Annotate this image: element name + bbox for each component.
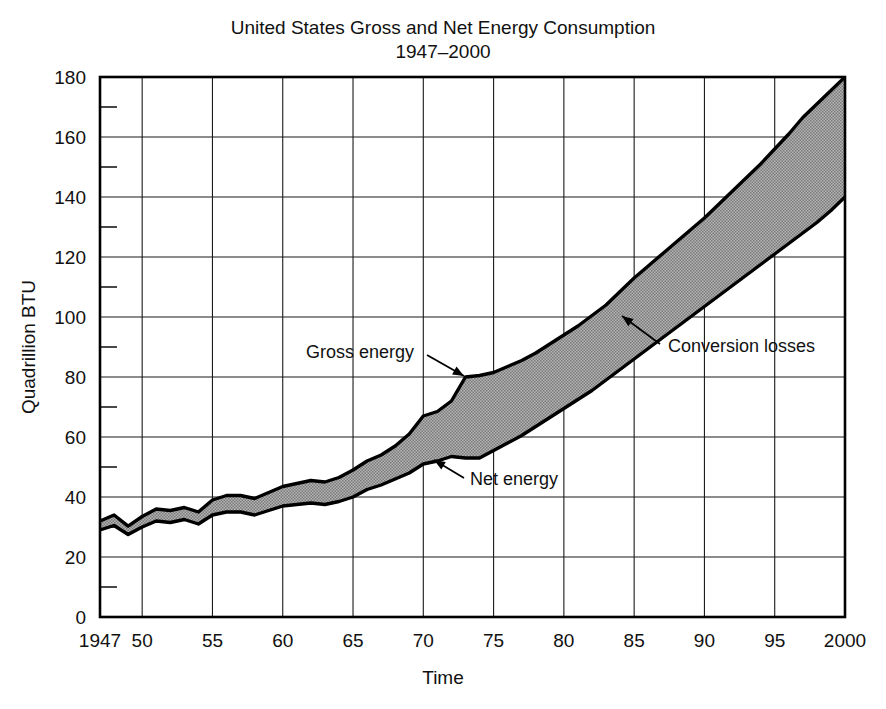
x-axis-tick-label: 80 bbox=[553, 630, 574, 651]
x-axis-tick-label: 50 bbox=[132, 630, 153, 651]
y-axis-tick-label: 140 bbox=[54, 187, 86, 208]
annotation-arrow-head bbox=[452, 367, 464, 376]
chart-svg: United States Gross and Net Energy Consu… bbox=[0, 0, 886, 709]
y-axis-tick-label: 40 bbox=[65, 487, 86, 508]
x-axis-tick-label: 70 bbox=[413, 630, 434, 651]
x-axis-tick-label: 2000 bbox=[824, 630, 866, 651]
y-axis-tick-labels: 020406080100120140160180 bbox=[54, 67, 86, 628]
y-axis-tick-label: 20 bbox=[65, 547, 86, 568]
y-axis-title: Quadrillion BTU bbox=[18, 280, 39, 414]
x-axis-tick-label: 60 bbox=[272, 630, 293, 651]
x-axis-title: Time bbox=[422, 667, 464, 688]
x-axis-tick-label: 95 bbox=[764, 630, 785, 651]
y-axis-tick-label: 0 bbox=[75, 607, 86, 628]
y-axis-tick-label: 160 bbox=[54, 127, 86, 148]
page-title: United States Gross and Net Energy Consu… bbox=[231, 17, 656, 38]
y-axis-tick-label: 60 bbox=[65, 427, 86, 448]
y-axis-tick-label: 100 bbox=[54, 307, 86, 328]
y-axis-tick-label: 120 bbox=[54, 247, 86, 268]
x-axis-tick-label: 90 bbox=[694, 630, 715, 651]
chart-subtitle: 1947–2000 bbox=[395, 41, 490, 62]
annotation-label: Conversion losses bbox=[668, 336, 815, 356]
x-axis-tick-label: 75 bbox=[483, 630, 504, 651]
annotation-label: Gross energy bbox=[306, 342, 414, 362]
series-lines bbox=[100, 77, 845, 535]
x-axis-tick-label: 65 bbox=[342, 630, 363, 651]
annotation-label: Net energy bbox=[470, 469, 558, 489]
energy-consumption-chart: United States Gross and Net Energy Consu… bbox=[0, 0, 886, 709]
annotation-gross-energy: Gross energy bbox=[306, 342, 464, 376]
y-axis-tick-label: 180 bbox=[54, 67, 86, 88]
band-area bbox=[100, 77, 845, 535]
x-axis-tick-label: 55 bbox=[202, 630, 223, 651]
conversion-losses-band bbox=[100, 77, 845, 535]
annotation-net-energy: Net energy bbox=[434, 460, 558, 489]
x-axis-tick-label: 85 bbox=[624, 630, 645, 651]
x-axis-tick-label: 1947 bbox=[79, 630, 121, 651]
x-axis-tick-labels: 1947505560657075808590952000 bbox=[79, 630, 866, 651]
y-axis-tick-label: 80 bbox=[65, 367, 86, 388]
annotation-arrow-head bbox=[434, 460, 446, 470]
